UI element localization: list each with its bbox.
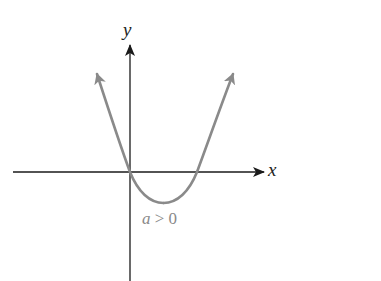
- x-axis-label: x: [268, 160, 276, 179]
- parabola-diagram: y x a > 0: [0, 0, 381, 281]
- condition-label: a > 0: [142, 210, 177, 227]
- parabola-curve-right: [164, 74, 234, 203]
- condition-variable: a: [142, 209, 151, 228]
- condition-relation: > 0: [151, 209, 178, 228]
- y-axis-label: y: [123, 20, 131, 39]
- diagram-canvas: [0, 0, 381, 281]
